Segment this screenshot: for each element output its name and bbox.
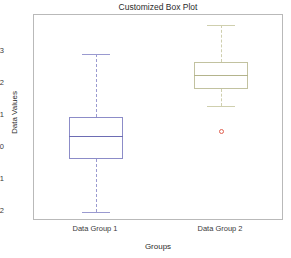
plot-area	[33, 14, 283, 220]
whisker-upper-group1	[96, 54, 98, 117]
y-tick-label-2: 2	[0, 79, 4, 87]
median-line-group1	[69, 136, 123, 137]
outlier-marker-group2	[219, 129, 224, 134]
box-group1	[69, 117, 123, 159]
y-tick-label-0: 0	[0, 143, 4, 151]
y-tick-label-3: 3	[0, 47, 4, 55]
x-axis-label: Groups	[33, 242, 283, 251]
y-tick-label-1: 1	[0, 111, 4, 119]
whisker-cap-lower-group1	[82, 212, 110, 213]
whisker-upper-group2	[221, 25, 223, 62]
y-tick-label-neg2: -2	[0, 207, 4, 215]
whisker-cap-upper-group1	[82, 54, 110, 55]
whisker-cap-lower-group2	[207, 106, 235, 107]
x-tick-label-group2: Data Group 2	[160, 224, 280, 233]
whisker-lower-group2	[221, 89, 223, 106]
y-tick-label-neg1: -1	[0, 175, 4, 183]
chart-title: Customized Box Plot	[33, 2, 283, 13]
box-plot-figure: Customized Box Plot Data Values Groups 3…	[0, 0, 291, 258]
median-line-group2	[194, 75, 248, 76]
whisker-cap-upper-group2	[207, 25, 235, 26]
whisker-lower-group1	[96, 159, 98, 212]
x-tick-label-group1: Data Group 1	[35, 224, 155, 233]
y-axis-label: Data Values	[10, 73, 19, 153]
